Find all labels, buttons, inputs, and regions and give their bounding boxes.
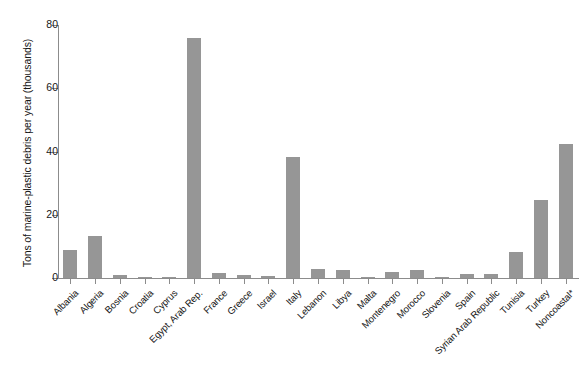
y-tick-label: 40 bbox=[12, 145, 58, 157]
bar bbox=[286, 157, 300, 278]
bar bbox=[187, 38, 201, 278]
y-tick: 0 bbox=[0, 278, 58, 279]
y-tick-label: 60 bbox=[12, 81, 58, 93]
y-tick-label: 0 bbox=[12, 271, 58, 283]
y-tick: 20 bbox=[0, 215, 58, 216]
y-tick: 40 bbox=[0, 152, 58, 153]
y-tick-label: 80 bbox=[12, 18, 58, 30]
y-tick-label: 20 bbox=[12, 208, 58, 220]
bar bbox=[63, 250, 77, 278]
y-tick: 60 bbox=[0, 88, 58, 89]
x-tick-mark bbox=[70, 279, 71, 284]
y-tick: 80 bbox=[0, 25, 58, 26]
x-tick-label-text: Albania bbox=[51, 286, 82, 317]
bar-chart-figure: Tons of marine-plastic debris per year (… bbox=[0, 0, 585, 376]
x-tick-label-text: Italy bbox=[284, 286, 305, 307]
plot-area bbox=[58, 25, 578, 278]
bar bbox=[559, 144, 573, 278]
